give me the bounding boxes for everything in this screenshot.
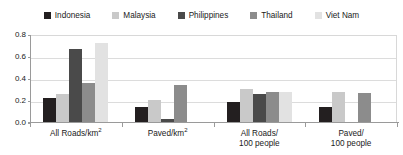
legend-swatch-icon — [44, 12, 51, 19]
bar[interactable] — [135, 107, 148, 124]
x-tick-label-superscript: 2 — [184, 127, 187, 133]
x-axis: All Roads/km2Paved/km2All Roads/100 peop… — [30, 129, 397, 153]
y-tick-mark — [28, 79, 31, 80]
bar[interactable] — [174, 85, 187, 124]
group-separator-tick — [305, 123, 306, 127]
bar[interactable] — [43, 98, 56, 123]
y-tick-label: 0.0 — [2, 119, 26, 127]
bar[interactable] — [332, 92, 345, 123]
y-tick-label: 0.8 — [2, 31, 26, 39]
x-tick-label-superscript: 2 — [98, 127, 101, 133]
bar[interactable] — [82, 83, 95, 123]
bar[interactable] — [69, 49, 82, 123]
x-tick-label-line1: All Roads/ — [241, 129, 278, 138]
legend-label: Viet Nam — [326, 12, 360, 20]
legend-label: Malaysia — [123, 12, 155, 20]
y-tick-label: 0.4 — [2, 75, 26, 83]
bar[interactable] — [56, 94, 69, 123]
bar[interactable] — [253, 94, 266, 123]
x-tick-label: All Roads/km2 — [30, 129, 122, 139]
legend-swatch-icon — [315, 12, 322, 19]
bar[interactable] — [266, 92, 279, 123]
y-axis: 0.00.20.40.60.8 — [0, 35, 26, 123]
legend-swatch-icon — [250, 12, 257, 19]
legend-item-philippines[interactable]: Philippines — [178, 12, 229, 20]
legend-item-malaysia[interactable]: Malaysia — [112, 12, 155, 20]
x-tick-label-line1: Paved/km — [148, 129, 184, 138]
bar[interactable] — [240, 89, 253, 123]
legend-swatch-icon — [178, 12, 185, 19]
bar-group — [30, 35, 122, 123]
legend-label: Philippines — [189, 12, 229, 20]
bar[interactable] — [358, 93, 371, 123]
bar[interactable] — [227, 102, 240, 123]
legend-label: Indonesia — [55, 12, 91, 20]
legend-item-viet-nam[interactable]: Viet Nam — [315, 12, 360, 20]
bar-group — [122, 35, 214, 123]
x-tick-label-line2: 100 people — [239, 139, 280, 148]
x-tick-label-line2: 100 people — [331, 139, 372, 148]
bar[interactable] — [148, 100, 161, 123]
legend-swatch-icon — [112, 12, 119, 19]
bar[interactable] — [319, 107, 332, 124]
x-tick-label: All Roads/100 people — [214, 129, 306, 149]
y-tick-mark — [28, 101, 31, 102]
x-tick-label: Paved/100 people — [305, 129, 397, 149]
bar[interactable] — [95, 43, 108, 123]
group-separator-tick — [30, 123, 31, 127]
legend-label: Thailand — [261, 12, 292, 20]
bar[interactable] — [279, 92, 292, 123]
chart-legend: IndonesiaMalaysiaPhilippinesThailandViet… — [0, 7, 403, 25]
bars-layer — [30, 35, 397, 123]
x-tick-label: Paved/km2 — [122, 129, 214, 139]
x-tick-label-line1: All Roads/km — [50, 129, 98, 138]
bar-chart: IndonesiaMalaysiaPhilippinesThailandViet… — [0, 0, 403, 155]
group-separator-tick — [397, 123, 398, 127]
group-separator-tick — [122, 123, 123, 127]
y-tick-mark — [28, 57, 31, 58]
legend-item-indonesia[interactable]: Indonesia — [44, 12, 91, 20]
legend-item-thailand[interactable]: Thailand — [250, 12, 292, 20]
group-separator-tick — [214, 123, 215, 127]
y-tick-mark — [28, 35, 31, 36]
y-tick-label: 0.2 — [2, 97, 26, 105]
bar-group — [214, 35, 306, 123]
bar-group — [305, 35, 397, 123]
y-tick-label: 0.6 — [2, 53, 26, 61]
x-tick-label-line1: Paved/ — [338, 129, 364, 138]
